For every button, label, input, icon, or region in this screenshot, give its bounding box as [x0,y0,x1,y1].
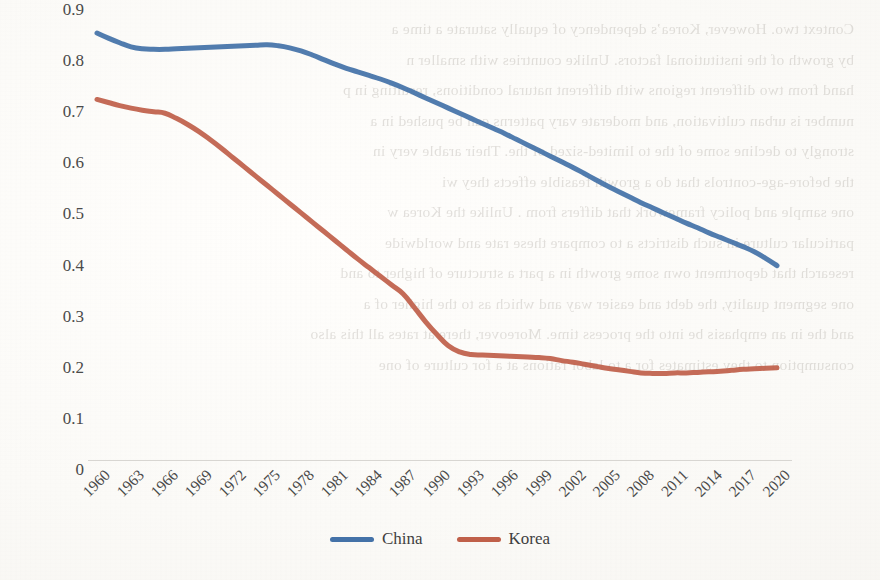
x-axis-tick-label: 1984 [342,466,386,510]
line-chart: 0.90.80.70.60.50.40.30.20.10 19601963196… [0,0,880,580]
legend-label: China [382,529,423,549]
x-axis-tick-label: 2014 [682,466,726,510]
series-lines [88,10,792,470]
series-line-china [97,33,777,266]
x-axis-tick-label: 2020 [750,466,794,510]
x-axis-tick-label: 1999 [512,466,556,510]
x-axis-tick-label: 2011 [648,466,692,510]
x-axis-tick-label: 1963 [104,466,148,510]
x-axis-tick-label: 1960 [70,466,114,510]
x-axis-tick-label: 1975 [240,466,284,510]
y-axis-tick-label: 0.5 [28,204,84,224]
x-axis-tick-label: 1966 [138,466,182,510]
x-axis-tick-label: 1990 [410,466,454,510]
y-axis-tick-label: 0.4 [28,256,84,276]
legend-item-china[interactable]: China [330,529,423,549]
y-axis-tick-label: 0.8 [28,51,84,71]
y-axis-tick-label: 0.6 [28,153,84,173]
y-axis-tick-label: 0.3 [28,307,84,327]
x-axis-tick-label: 1981 [308,466,352,510]
x-axis-tick-label: 2002 [546,466,590,510]
x-axis-tick-label: 1993 [444,466,488,510]
x-axis-tick-label: 2017 [716,466,760,510]
x-axis-tick-label: 1996 [478,466,522,510]
x-axis-tick-label: 2008 [614,466,658,510]
x-axis-tick-label: 2005 [580,466,624,510]
y-axis-tick-label: 0.7 [28,102,84,122]
x-axis-tick-label: 1972 [206,466,250,510]
plot-area [88,10,792,470]
y-axis-tick-label: 0.9 [28,0,84,20]
x-axis-tick-label: 1987 [376,466,420,510]
x-axis-tick-label: 1978 [274,466,318,510]
legend-item-korea[interactable]: Korea [457,529,551,549]
y-axis-tick-label: 0.1 [28,409,84,429]
legend-swatch-icon [457,537,501,542]
chart-legend: ChinaKorea [0,524,880,554]
legend-swatch-icon [330,537,374,542]
y-axis-tick-label: 0.2 [28,358,84,378]
series-line-korea [97,99,777,373]
legend-label: Korea [509,529,551,549]
x-axis-tick-label: 1969 [172,466,216,510]
